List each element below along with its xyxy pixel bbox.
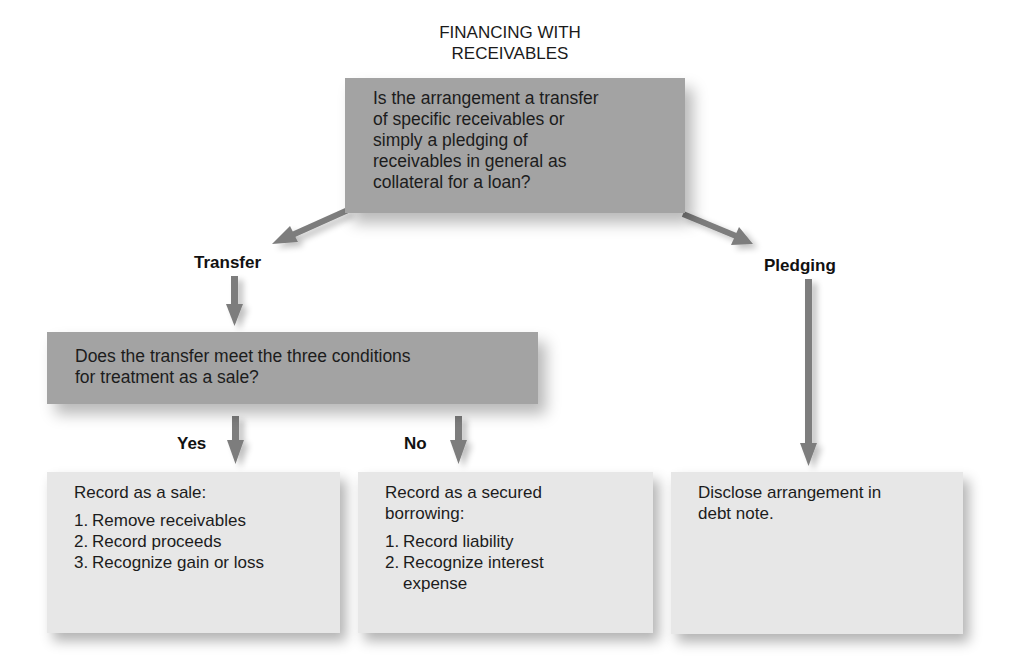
question-sale-conditions: Does the transfer meet the three conditi…: [47, 332, 538, 404]
outcome-step: 2. Record proceeds: [74, 531, 340, 552]
arrow-to-pledging: [683, 214, 753, 245]
arrow-pledging-down: [800, 279, 817, 466]
question1-line: receivables in general as: [373, 151, 685, 172]
question2-line: Does the transfer meet the three conditi…: [75, 346, 538, 367]
label-transfer: Transfer: [194, 253, 261, 273]
step-number: 1.: [385, 531, 403, 552]
arrow-no-down: [450, 416, 467, 464]
label-pledging: Pledging: [764, 256, 836, 276]
step-text: Recognize interest expense: [403, 552, 544, 594]
step-number: 2.: [385, 552, 403, 594]
question1-line: of specific receivables or: [373, 109, 685, 130]
outcome-text-line: Disclose arrangement in: [698, 482, 963, 503]
arrow-yes-down: [227, 416, 244, 464]
outcome-title-line: borrowing:: [385, 503, 653, 524]
step-number: 2.: [74, 531, 92, 552]
outcome-step: 1. Remove receivables: [74, 510, 340, 531]
outcome-text-line: debt note.: [698, 503, 963, 524]
step-text-line: expense: [403, 573, 544, 594]
question1-line: Is the arrangement a transfer: [373, 88, 685, 109]
outcome-secured-borrowing: Record as a secured borrowing: 1. Record…: [358, 472, 653, 633]
arrow-to-transfer: [272, 210, 348, 244]
outcome-step: 3. Recognize gain or loss: [74, 552, 340, 573]
outcome-disclose-arrangement: Disclose arrangement in debt note.: [671, 472, 963, 634]
outcome-title: Record as a secured borrowing:: [385, 482, 653, 524]
arrow-transfer-down: [226, 276, 243, 326]
question-transfer-or-pledge: Is the arrangement a transfer of specifi…: [345, 78, 685, 213]
step-text: Remove receivables: [92, 510, 246, 531]
outcome-record-as-sale: Record as a sale: 1. Remove receivables …: [47, 472, 340, 633]
outcome-steps: 1. Record liability 2. Recognize interes…: [385, 531, 653, 594]
outcome-steps: 1. Remove receivables 2. Record proceeds…: [74, 510, 340, 573]
outcome-title: Record as a sale:: [74, 482, 340, 503]
step-text: Record liability: [403, 531, 514, 552]
label-no: No: [404, 434, 427, 454]
outcome-text: Disclose arrangement in debt note.: [698, 482, 963, 524]
step-text-line: Recognize interest: [403, 552, 544, 573]
step-number: 3.: [74, 552, 92, 573]
outcome-step: 2. Recognize interest expense: [385, 552, 653, 594]
outcome-title-line: Record as a secured: [385, 482, 653, 503]
question1-line: collateral for a loan?: [373, 172, 685, 193]
step-text: Record proceeds: [92, 531, 221, 552]
question1-line: simply a pledging of: [373, 130, 685, 151]
outcome-step: 1. Record liability: [385, 531, 653, 552]
label-yes: Yes: [177, 434, 206, 454]
question2-line: for treatment as a sale?: [75, 367, 538, 388]
step-text: Recognize gain or loss: [92, 552, 264, 573]
step-number: 1.: [74, 510, 92, 531]
